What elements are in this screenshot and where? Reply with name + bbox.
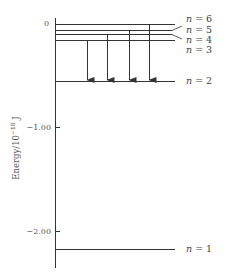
energy-level-diagram: 0 −1.00 −2.00 Energy/10−18 J n = 6 n = 5… xyxy=(0,0,228,275)
level-n6-label: n = 6 xyxy=(186,13,212,24)
tick-label-minus-2: −2.00 xyxy=(26,227,51,236)
y-axis-label-base: Energy/10 xyxy=(11,135,21,180)
tick-label-0: 0 xyxy=(44,19,49,28)
leader-n4 xyxy=(172,35,182,40)
y-axis-label-unit: J xyxy=(11,116,21,121)
level-n2-label: n = 2 xyxy=(186,75,212,86)
tick-label-minus-1: −1.00 xyxy=(26,123,51,132)
level-n3-label: n = 3 xyxy=(186,44,212,55)
y-axis-label-exponent: −18 xyxy=(9,122,16,135)
y-axis-label: Energy/10−18 J xyxy=(9,116,21,180)
level-n1-label: n = 1 xyxy=(186,243,212,254)
leader-n5 xyxy=(172,26,182,31)
